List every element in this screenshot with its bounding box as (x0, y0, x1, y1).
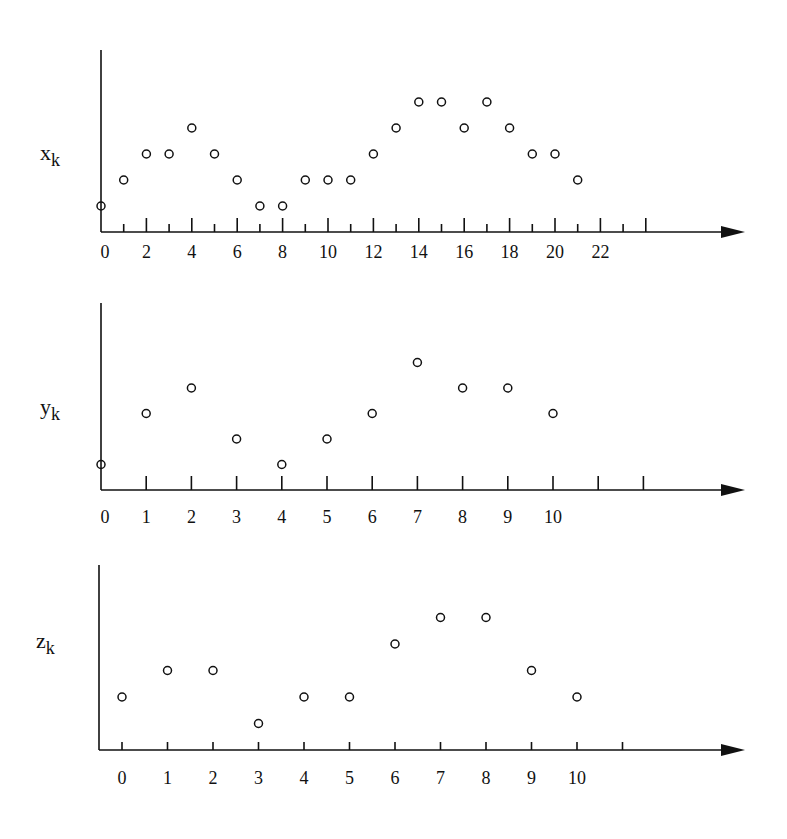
x-tick-label: 18 (501, 242, 519, 262)
data-point-circle (528, 667, 536, 675)
x-tick-label: 12 (364, 242, 382, 262)
data-point-circle (413, 359, 421, 367)
y-axis-label: xk (40, 140, 60, 170)
y-axis-label-main: z (36, 628, 46, 653)
x-tick-label: 4 (300, 768, 309, 788)
data-point-circle (369, 150, 377, 158)
x-tick-label: 1 (142, 507, 151, 527)
y-axis-label-main: y (40, 394, 51, 419)
x-tick-label: 4 (277, 507, 286, 527)
data-point-circle (118, 693, 126, 701)
x-tick-label: 14 (410, 242, 428, 262)
data-point-circle (437, 614, 445, 622)
data-point-circle (573, 693, 581, 701)
data-point-circle (415, 98, 423, 106)
x-tick-label: 3 (254, 768, 263, 788)
x-tick-label: 3 (232, 507, 241, 527)
x-tick-label: 10 (544, 507, 562, 527)
data-point-circle (279, 202, 287, 210)
x-tick-label: 4 (187, 242, 196, 262)
x-tick-label: 8 (458, 507, 467, 527)
y-axis-label-subscript: k (51, 150, 60, 170)
x-tick-label: 5 (345, 768, 354, 788)
x-tick-label: 5 (323, 507, 332, 527)
data-point-circle (233, 435, 241, 443)
data-point-circle (323, 435, 331, 443)
data-point-circle (368, 410, 376, 418)
data-point-circle (574, 176, 582, 184)
y-axis-label-subscript: k (46, 638, 55, 658)
data-point-circle (438, 98, 446, 106)
data-point-circle (142, 410, 150, 418)
data-point-circle (551, 150, 559, 158)
x-tick-label: 10 (568, 768, 586, 788)
data-point-circle (391, 640, 399, 648)
data-point-circle (278, 461, 286, 469)
x-axis-arrow-icon (721, 744, 745, 756)
x-tick-label: 22 (591, 242, 609, 262)
data-point-circle (482, 614, 490, 622)
x-axis-arrow-icon (721, 226, 745, 238)
data-point-circle (324, 176, 332, 184)
data-point-circle (142, 150, 150, 158)
data-point-circle (165, 150, 173, 158)
yk-sequence-plot: 012345678910yk (40, 303, 745, 527)
xk-sequence-plot: 0246810121416182022xk (40, 50, 745, 262)
data-point-circle (504, 384, 512, 392)
x-tick-label: 1 (163, 768, 172, 788)
y-axis-label: zk (36, 628, 55, 658)
data-point-circle (188, 124, 196, 132)
y-axis-label: yk (40, 394, 60, 424)
x-tick-label: 2 (187, 507, 196, 527)
data-point-circle (211, 150, 219, 158)
x-tick-label: 0 (101, 242, 110, 262)
x-tick-label: 9 (527, 768, 536, 788)
x-tick-label: 10 (319, 242, 337, 262)
data-point-circle (301, 176, 309, 184)
data-point-circle (255, 720, 263, 728)
x-tick-label: 8 (278, 242, 287, 262)
data-point-circle (460, 124, 468, 132)
data-point-circle (459, 384, 467, 392)
chart-canvas: 0246810121416182022xk 012345678910yk 012… (0, 0, 787, 839)
data-point-circle (528, 150, 536, 158)
data-point-circle (187, 384, 195, 392)
x-tick-label: 20 (546, 242, 564, 262)
zk-sequence-plot: 012345678910zk (36, 565, 745, 788)
y-axis-label-subscript: k (51, 404, 60, 424)
data-point-circle (506, 124, 514, 132)
x-tick-label: 2 (142, 242, 151, 262)
data-point-circle (392, 124, 400, 132)
data-point-circle (164, 667, 172, 675)
data-point-circle (549, 410, 557, 418)
data-point-circle (233, 176, 241, 184)
data-point-circle (209, 667, 217, 675)
data-point-circle (256, 202, 264, 210)
x-tick-label: 6 (368, 507, 377, 527)
x-axis-arrow-icon (721, 484, 745, 496)
x-tick-label: 2 (209, 768, 218, 788)
x-tick-label: 0 (118, 768, 127, 788)
x-tick-label: 6 (233, 242, 242, 262)
y-axis-label-main: x (40, 140, 51, 165)
x-tick-label: 8 (482, 768, 491, 788)
data-point-circle (483, 98, 491, 106)
x-tick-label: 7 (413, 507, 422, 527)
x-tick-label: 6 (391, 768, 400, 788)
data-point-circle (346, 693, 354, 701)
data-point-circle (300, 693, 308, 701)
x-tick-label: 7 (436, 768, 445, 788)
x-tick-label: 0 (101, 507, 110, 527)
x-tick-label: 16 (455, 242, 473, 262)
data-point-circle (120, 176, 128, 184)
data-point-circle (347, 176, 355, 184)
x-tick-label: 9 (503, 507, 512, 527)
